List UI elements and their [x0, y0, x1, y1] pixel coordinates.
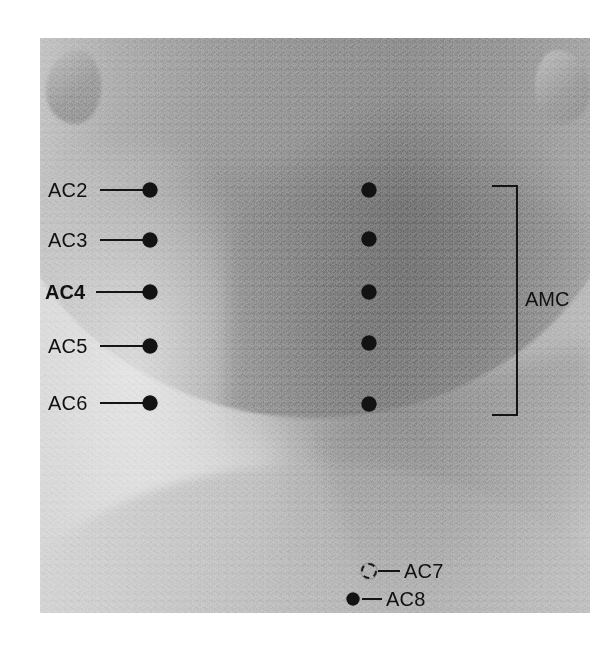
leader-line	[100, 189, 143, 191]
point-label-ac4: AC4	[45, 282, 85, 302]
leader-line	[100, 239, 143, 241]
point-marker-ac6	[143, 396, 158, 411]
leader-line	[378, 570, 400, 572]
midline-point-marker	[362, 336, 377, 351]
point-label-ac8: AC8	[386, 589, 426, 609]
midline-point-marker	[362, 397, 377, 412]
amc-label: AMC	[525, 289, 569, 309]
midline-point-marker	[362, 183, 377, 198]
point-marker-ac7	[361, 563, 377, 579]
midline-point-marker	[362, 232, 377, 247]
point-label-ac3: AC3	[48, 230, 88, 250]
leader-line	[100, 345, 143, 347]
point-marker-ac3	[143, 233, 158, 248]
leader-line	[100, 402, 143, 404]
point-marker-ac8	[347, 593, 360, 606]
point-label-ac2: AC2	[48, 180, 88, 200]
point-marker-ac4	[143, 285, 158, 300]
leader-line	[362, 598, 382, 600]
point-label-ac7: AC7	[404, 561, 444, 581]
midline-point-marker	[362, 285, 377, 300]
point-marker-ac5	[143, 339, 158, 354]
point-marker-ac2	[143, 183, 158, 198]
leader-line	[96, 291, 143, 293]
amc-bracket	[492, 185, 518, 416]
figure-root: AMC AC2AC3AC4AC5AC6AC7AC8	[0, 0, 615, 648]
annotation-layer: AMC AC2AC3AC4AC5AC6AC7AC8	[0, 0, 615, 648]
point-label-ac6: AC6	[48, 393, 88, 413]
point-label-ac5: AC5	[48, 336, 88, 356]
